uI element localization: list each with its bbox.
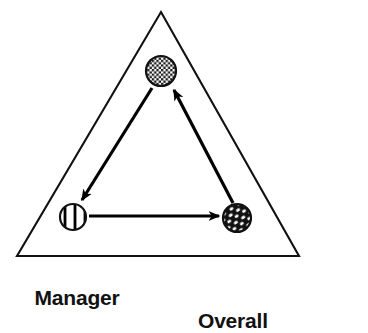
diagonal-dashed-circle-node <box>223 204 251 232</box>
arrow-right-to-top <box>174 90 233 203</box>
striped-circle-node <box>60 204 86 230</box>
diagram-canvas: Manager Overall Management <box>0 0 368 333</box>
checkered-circle-node <box>146 56 176 86</box>
label-manager: Manager <box>12 262 120 333</box>
label-manager-text: Manager <box>35 286 120 309</box>
label-overall-management: Overall Management <box>198 262 324 333</box>
arrow-top-to-left <box>82 88 152 200</box>
label-overall-line1: Overall <box>198 309 324 333</box>
